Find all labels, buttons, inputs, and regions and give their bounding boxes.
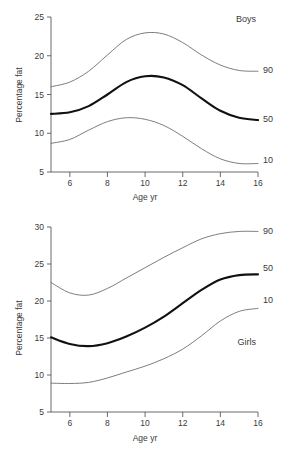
boys-xtick-label-0: 6 [67,178,72,188]
boys-ytick-label-2: 15 [35,90,45,100]
girls-plot-svg: 5 10 15 20 25 30 6 8 10 12 14 [0,220,285,453]
boys-curve-10 [51,118,258,164]
girls-y-ticks [47,227,51,412]
girls-ytick-label-5: 30 [35,222,45,232]
boys-axis-lines [51,17,258,172]
boys-xtick-label-2: 10 [140,178,150,188]
girls-xtick-label-3: 12 [178,418,188,428]
boys-xtick-label-3: 12 [178,178,188,188]
girls-panel-label: Girls [238,337,257,347]
boys-y-ticks [47,17,51,172]
girls-xtick-label-1: 8 [105,418,110,428]
girls-series-label-10: 10 [263,295,273,305]
boys-series-label-50: 50 [263,114,273,124]
boys-xtick-label-4: 14 [216,178,226,188]
boys-xtick-label-1: 8 [105,178,110,188]
boys-ytick-label-0: 5 [39,167,44,177]
girls-curve-90 [51,231,258,295]
boys-series-label-10: 10 [263,155,273,165]
boys-curve-50 [51,76,258,120]
boys-panel-label: Boys [236,14,257,24]
girls-ytick-label-2: 15 [35,333,45,343]
girls-curve-50 [51,274,258,346]
girls-x-tick-labels: 6 8 10 12 14 16 [67,418,263,428]
girls-y-tick-labels: 5 10 15 20 25 30 [35,222,45,417]
boys-y-tick-labels: 5 10 15 20 25 [35,12,45,177]
boys-ytick-label-4: 25 [35,12,45,22]
boys-series-label-90: 90 [263,65,273,75]
chart-panel-boys: 5 10 15 20 25 6 8 10 12 14 16 [0,0,285,226]
boys-x-tick-labels: 6 8 10 12 14 16 [67,178,263,188]
boys-ytick-label-1: 10 [35,128,45,138]
girls-y-axis-title: Percentage fat [14,300,24,356]
girls-x-ticks [70,412,258,417]
girls-ytick-label-0: 5 [39,407,44,417]
chart-panel-girls: 5 10 15 20 25 30 6 8 10 12 14 [0,220,285,453]
girls-xtick-label-0: 6 [67,418,72,428]
girls-ytick-label-1: 10 [35,370,45,380]
girls-series-label-90: 90 [263,226,273,236]
boys-x-ticks [70,172,258,177]
girls-ytick-label-3: 20 [35,296,45,306]
boys-ytick-label-3: 20 [35,51,45,61]
girls-axis-lines [51,227,258,412]
boys-plot-svg: 5 10 15 20 25 6 8 10 12 14 16 [0,0,285,226]
girls-x-axis-title: Age yr [133,433,158,443]
girls-xtick-label-4: 14 [216,418,226,428]
figure-page: 5 10 15 20 25 6 8 10 12 14 16 [0,0,285,453]
girls-xtick-label-2: 10 [140,418,150,428]
boys-x-axis-title: Age yr [133,192,158,202]
boys-curve-90 [51,32,258,86]
girls-xtick-label-5: 16 [253,418,263,428]
boys-y-axis-title: Percentage fat [14,67,24,123]
girls-series-label-50: 50 [263,263,273,273]
girls-ytick-label-4: 25 [35,259,45,269]
boys-xtick-label-5: 16 [253,178,263,188]
